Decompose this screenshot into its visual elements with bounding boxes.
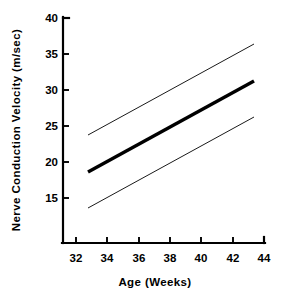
y-tick-label-30: 30: [45, 84, 58, 96]
chart-plot-area: 40 35 30 25 20 15 32 34 36 38 40 42 44 A…: [0, 0, 281, 304]
y-tick-label-20: 20: [45, 156, 58, 168]
y-tick-label-15: 15: [45, 192, 58, 204]
y-tick-label-25: 25: [45, 120, 58, 132]
x-tick-label-36: 36: [133, 252, 146, 264]
y-axis-title: Nerve Conduction Velocity (m/sec): [10, 29, 22, 231]
x-tick-label-40: 40: [195, 252, 208, 264]
x-tick-label-34: 34: [101, 252, 114, 264]
lower-confidence-band-line: [88, 117, 254, 208]
y-tick-label-40: 40: [45, 12, 58, 24]
x-tick-label-44: 44: [258, 252, 271, 264]
chart-figure: 40 35 30 25 20 15 32 34 36 38 40 42 44 A…: [0, 0, 281, 304]
y-tick-label-35: 35: [45, 48, 58, 60]
x-axis-title: Age (Weeks): [118, 276, 191, 288]
x-tick-label-32: 32: [70, 252, 83, 264]
x-tick-label-38: 38: [164, 252, 177, 264]
x-tick-label-42: 42: [227, 252, 240, 264]
upper-confidence-band-line: [88, 44, 254, 135]
regression-line: [88, 81, 254, 172]
